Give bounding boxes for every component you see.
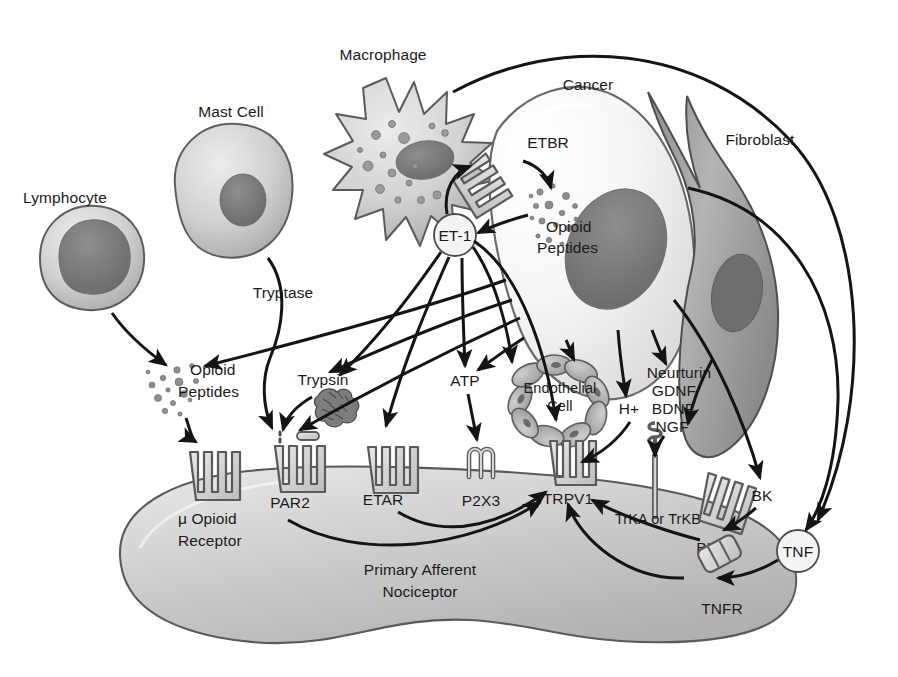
etar-label: ETAR (363, 491, 404, 508)
par2-label: PAR2 (270, 494, 310, 511)
endothelial-label-line1: Endothelial (524, 380, 597, 396)
lymphocyte-label: Lymphocyte (23, 189, 107, 206)
trypsin-blob (314, 389, 358, 427)
et1-label: ET-1 (438, 227, 471, 244)
arrow-atp-to-p2x3 (468, 394, 477, 440)
ngf-label: NGF (655, 418, 688, 435)
cancer-opioid-peptides-line1: Opioid (546, 218, 591, 235)
mu-opioid-receptor-label-line1: μ Opioid (178, 510, 237, 527)
arrow-et1-to-etar (386, 257, 449, 426)
arrow-opioid-peptides-to-mu-receptor (186, 418, 196, 442)
pathway-illustration: Lymphocyte Mast Cell Macrophage Cancer (0, 0, 898, 677)
mu-opioid-receptor-label-line2: Receptor (178, 532, 242, 549)
bdnf-label: BDNF (652, 400, 695, 417)
arrow-cancer-to-opioid-peptides-left (205, 280, 506, 366)
mast-cell (175, 124, 293, 258)
arrow-cancer-to-atp (478, 338, 524, 370)
par2-receptor-icon (275, 432, 325, 492)
h-plus-label: H+ (619, 400, 639, 417)
cancer-opioid-peptides-line2: Peptides (537, 239, 598, 256)
opioid-peptides-left-line2: Peptides (178, 383, 239, 400)
lymphocyte-cell (40, 206, 144, 310)
mast-cell-label: Mast Cell (198, 103, 264, 120)
cancer-label: Cancer (563, 76, 614, 93)
gdnf-label: GDNF (652, 382, 696, 399)
arrow-lymphocyte-to-opioid-peptides (112, 313, 166, 365)
tnfr-label: TNFR (701, 600, 743, 617)
atp-label: ATP (450, 372, 479, 389)
bk-label: BK (752, 487, 773, 504)
trk-label: TrKA or TrKB (615, 511, 701, 527)
arrow-cancer-to-trypsin (330, 300, 512, 372)
etbr-label: ETBR (527, 134, 569, 151)
p2x3-label: P2X3 (462, 492, 500, 509)
nociceptor-label-line1: Primary Afferent (364, 561, 477, 578)
endothelial-label-line2: Cell (547, 398, 572, 414)
nociceptor-label-line2: Nociceptor (382, 583, 457, 600)
trpv1-receptor-icon (550, 441, 596, 485)
macrophage-label: Macrophage (339, 46, 426, 63)
diagram-canvas: { "figure": { "title": "Tumor microenvir… (0, 0, 898, 677)
tnf-label: TNF (783, 543, 813, 560)
arrow-et1-to-atp (462, 258, 465, 366)
